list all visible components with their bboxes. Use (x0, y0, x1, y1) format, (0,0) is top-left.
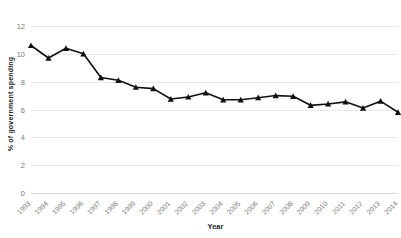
x-axis-tick-labels: 1993199419951996199719981999200020012002… (16, 200, 399, 216)
data-series-line (31, 45, 398, 112)
x-axis-tick-label: 2012 (348, 200, 364, 216)
data-point-marker (377, 98, 383, 104)
plot-area: 024681012 199319941995199619971998199920… (0, 0, 401, 238)
x-axis-tick-label: 2000 (138, 200, 154, 216)
x-axis-tick-label: 1998 (103, 200, 119, 216)
x-axis-tick-label: 2004 (208, 200, 224, 216)
line-chart: % of government spending 024681012 19931… (0, 0, 401, 238)
gridlines (31, 27, 398, 194)
y-axis-tick-label: 2 (21, 161, 25, 170)
y-axis-tick-label: 4 (21, 133, 25, 142)
x-axis-tick-label: 2009 (295, 200, 311, 216)
x-axis-tick-label: 2005 (225, 200, 241, 216)
data-series-markers (28, 42, 401, 115)
x-axis-tick-label: 2001 (156, 200, 172, 216)
x-axis-tick-label: 2002 (173, 200, 189, 216)
x-axis-tick-label: 2013 (365, 200, 381, 216)
y-axis-tick-label: 0 (21, 189, 25, 198)
y-axis-tick-label: 8 (21, 78, 25, 87)
data-point-marker (28, 42, 34, 48)
y-axis-tick-labels: 024681012 (17, 22, 25, 198)
x-axis-tick-label: 1999 (121, 200, 137, 216)
x-axis-tick-label: 1997 (86, 200, 102, 216)
x-axis-tick-label: 1995 (51, 200, 67, 216)
x-axis-tick-label: 2014 (383, 200, 399, 216)
x-axis-tick-label: 2007 (260, 200, 276, 216)
x-axis-tick-label: 1993 (16, 200, 32, 216)
y-axis-tick-label: 10 (17, 50, 25, 59)
x-axis-tick-label: 1996 (68, 200, 84, 216)
x-axis-tick-label: 1994 (33, 200, 49, 216)
y-axis-tick-label: 12 (17, 22, 25, 31)
x-axis-tick-label: 2011 (331, 200, 347, 216)
x-axis-tick-label: 2010 (313, 200, 329, 216)
y-axis-tick-label: 6 (21, 106, 25, 115)
x-axis-tick-label: 2003 (191, 200, 207, 216)
x-axis-tick-label: 2008 (278, 200, 294, 216)
x-axis-title: Year (30, 222, 401, 231)
data-point-marker (63, 45, 69, 51)
x-axis-tick-label: 2006 (243, 200, 259, 216)
